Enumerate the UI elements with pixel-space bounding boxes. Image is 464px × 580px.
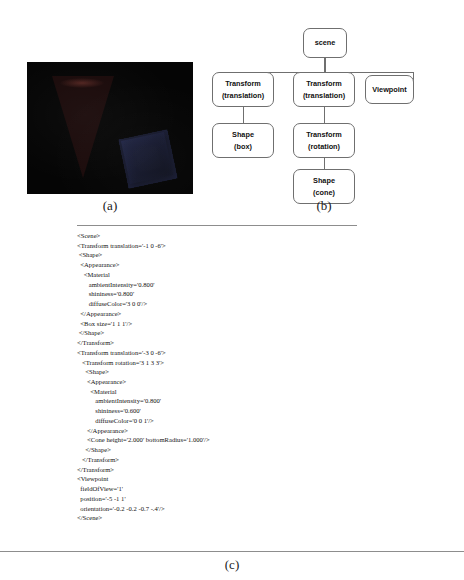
rendered-scene-image [27,62,193,194]
code-listing-panel: <Scene> <Transform translation='-1 0 -6'… [77,231,407,523]
node-transform-1-line2: (translation) [222,90,264,101]
divider-lower [0,551,464,552]
node-transform-1-line1: Transform [225,78,261,89]
edge-scene-down [324,58,325,72]
node-shape-cone-line1: Shape [313,175,335,186]
node-viewpoint[interactable]: Viewpoint [365,75,414,104]
node-viewpoint-label: Viewpoint [372,84,406,95]
caption-b: (b) [286,198,362,214]
node-shape-box-line1: Shape [232,129,254,140]
x3d-scene-code: <Scene> <Transform translation='-1 0 -6'… [77,231,407,523]
node-transform-translation-1[interactable]: Transform (translation) [212,72,274,107]
edge-t1-to-shape-box [243,107,244,124]
cone-highlight [60,78,104,88]
edge-t2-to-rotation [324,107,325,124]
box-face-highlight [121,132,173,184]
cone-shape [52,76,114,178]
node-shape-box[interactable]: Shape (box) [212,123,274,158]
node-transform-translation-2[interactable]: Transform (translation) [293,72,355,107]
node-transform-2-line2: (translation) [303,90,345,101]
node-shape-box-line2: (box) [234,141,252,152]
scene-graph-diagram: scene Transform (translation) Transform … [213,20,461,196]
render-canvas [27,62,193,194]
node-scene-label: scene [315,37,336,48]
divider-upper [77,225,357,226]
node-transform-rotation-line1: Transform [306,129,342,140]
node-transform-rotation[interactable]: Transform (rotation) [293,123,355,158]
node-shape-cone-line2: (cone) [313,187,335,198]
node-transform-2-line1: Transform [306,78,342,89]
caption-a: (a) [72,198,148,214]
node-scene[interactable]: scene [303,28,347,58]
caption-c: (c) [194,557,270,573]
node-transform-rotation-line2: (rotation) [308,141,340,152]
